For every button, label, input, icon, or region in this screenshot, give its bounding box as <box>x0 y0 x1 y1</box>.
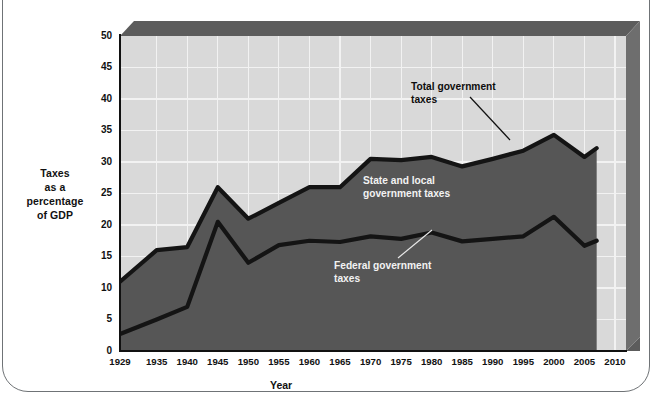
y-axis-tick-30: 30 <box>86 156 112 167</box>
x-axis-tick-1995: 1995 <box>506 356 540 367</box>
x-axis-tick-1950: 1950 <box>231 356 265 367</box>
x-axis-tick-1960: 1960 <box>292 356 326 367</box>
x-axis-tick-1980: 1980 <box>415 356 449 367</box>
x-axis-tick-1929: 1929 <box>103 356 137 367</box>
chart-bevel-top <box>120 21 640 36</box>
x-axis-tick-1975: 1975 <box>384 356 418 367</box>
x-axis-tick-2005: 2005 <box>567 356 601 367</box>
x-axis-tick-1985: 1985 <box>445 356 479 367</box>
y-axis-tick-35: 35 <box>86 124 112 135</box>
x-axis-tick-1940: 1940 <box>170 356 204 367</box>
x-axis-tick-1965: 1965 <box>323 356 357 367</box>
x-axis-tick-1990: 1990 <box>476 356 510 367</box>
x-axis-tick-1935: 1935 <box>140 356 174 367</box>
x-axis-tick-1945: 1945 <box>201 356 235 367</box>
chart-bevel-right <box>626 21 640 351</box>
x-axis-tick-2010: 2010 <box>598 356 632 367</box>
annotation-federal-government-taxes: Federal government taxes <box>334 259 431 285</box>
x-axis-tick-1970: 1970 <box>354 356 388 367</box>
x-axis-title: Year <box>270 379 292 391</box>
y-axis-tick-5: 5 <box>86 313 112 324</box>
y-axis-tick-15: 15 <box>86 250 112 261</box>
y-axis-title-line: of GDP <box>18 208 92 222</box>
y-axis-tick-40: 40 <box>86 93 112 104</box>
y-axis-title: Taxesas apercentageof GDP <box>18 166 92 222</box>
y-axis-tick-10: 10 <box>86 282 112 293</box>
chart-figure: 05101520253035404550 1929193519401945195… <box>0 0 658 403</box>
x-axis-tick-1955: 1955 <box>262 356 296 367</box>
y-axis-tick-50: 50 <box>86 30 112 41</box>
y-axis-title-line: Taxes <box>18 166 92 180</box>
x-axis-tick-2000: 2000 <box>537 356 571 367</box>
y-axis-tick-0: 0 <box>86 345 112 356</box>
annotation-total-government-taxes: Total government taxes <box>411 80 496 106</box>
y-axis-title-line: percentage <box>18 194 92 208</box>
y-axis-tick-45: 45 <box>86 61 112 72</box>
annotation-state-and-local-government-taxes: State and local government taxes <box>363 174 450 200</box>
y-axis-title-line: as a <box>18 180 92 194</box>
